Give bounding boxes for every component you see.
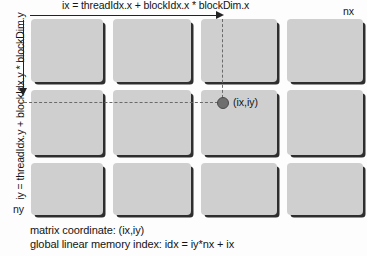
block-r2c2: [201, 163, 277, 215]
y-index-formula-label: iy = threadIdx.y + blockIdx.y * blockDim…: [14, 11, 26, 201]
matrix-coordinate-point-marker: [217, 97, 229, 109]
block-r1c0: [31, 90, 103, 155]
block-r2c1: [113, 163, 191, 215]
x-axis-arrow-line: [30, 15, 218, 16]
block-r0c3: [287, 19, 363, 82]
block-r2c3: [287, 163, 363, 215]
x-index-formula-label: ix = threadIdx.x + blockIdx.x * blockDim…: [62, 0, 249, 11]
cuda-matrix-indexing-diagram: ix = threadIdx.x + blockIdx.x * blockDim…: [0, 0, 367, 256]
block-r0c1: [113, 19, 191, 82]
block-r1c3: [287, 90, 363, 155]
ny-axis-label: ny: [13, 203, 24, 215]
matrix-coordinate-point-label: (ix,iy): [233, 96, 258, 108]
block-r1c1: [113, 90, 191, 155]
block-r0c0: [31, 19, 103, 82]
block-r0c2: [201, 19, 277, 82]
y-axis-arrow-head-icon: [19, 88, 27, 96]
y-axis-arrow-line: [23, 20, 24, 90]
horizontal-guide-dashed-line: [24, 102, 223, 103]
caption-line-matrix-coordinate: matrix coordinate: (ix,iy): [30, 223, 234, 237]
vertical-guide-dashed-line: [222, 19, 223, 103]
block-r2c0: [31, 163, 103, 215]
caption-line-global-index: global linear memory index: idx = iy*nx …: [30, 237, 234, 251]
x-axis-arrow-head-icon: [216, 11, 224, 19]
caption-block: matrix coordinate: (ix,iy) global linear…: [30, 223, 234, 251]
nx-axis-label: nx: [343, 5, 354, 17]
